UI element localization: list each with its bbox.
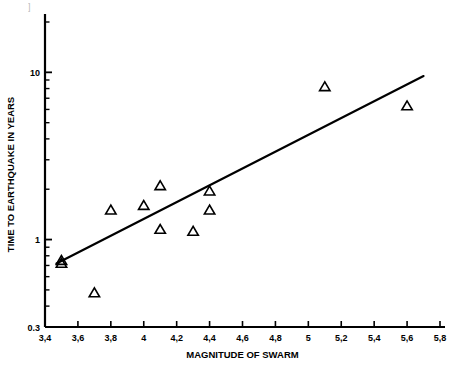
x-tick-label: 5,8 — [434, 333, 447, 343]
x-tick-label: 4,2 — [170, 333, 183, 343]
x-tick-label: 3,4 — [39, 333, 52, 343]
page-edge-artifact: ] — [28, 2, 88, 14]
x-tick-label: 4 — [141, 333, 146, 343]
x-tick-label: 5 — [306, 333, 311, 343]
x-tick-label: 3,6 — [72, 333, 85, 343]
x-tick-label: 5,2 — [335, 333, 348, 343]
scatter-plot-canvas: 3,43,63,844,24,44,64,855,25,45,65,80.311… — [0, 0, 455, 368]
plot-background — [0, 0, 455, 368]
y-tick-label: 10 — [30, 68, 40, 78]
y-tick-label: 1 — [35, 235, 40, 245]
x-tick-label: 4,8 — [269, 333, 282, 343]
x-tick-label: 5,6 — [401, 333, 414, 343]
x-tick-label: 5,4 — [368, 333, 381, 343]
y-tick-label: 0.3 — [27, 323, 40, 333]
x-tick-label: 3,8 — [105, 333, 118, 343]
x-tick-label: 4,4 — [203, 333, 216, 343]
chart-figure: ] 3,43,63,844,24,44,64,855,25,45,65,80.3… — [0, 0, 455, 368]
x-tick-label: 4,6 — [236, 333, 249, 343]
x-axis-title: MAGNITUDE OF SWARM — [186, 349, 298, 360]
y-axis-title: TIME TO EARTHQUAKE IN YEARS — [5, 97, 16, 252]
